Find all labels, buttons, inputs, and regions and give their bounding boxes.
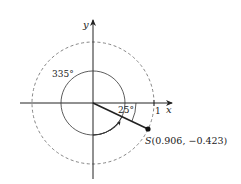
point-S-label: S(0.906, −0.423): [145, 135, 227, 146]
point-S: [145, 126, 150, 131]
y-axis-label: y: [82, 19, 89, 30]
x-axis-label: x: [166, 104, 172, 115]
unit-circle-diagram: y x 1 335° 25° S(0.906, −0.423): [0, 0, 241, 184]
angle-label-335: 335°: [52, 69, 74, 79]
point-coords: (0.906, −0.423): [152, 135, 228, 146]
angle-label-25: 25°: [118, 105, 134, 115]
tick-label-1: 1: [155, 106, 161, 116]
